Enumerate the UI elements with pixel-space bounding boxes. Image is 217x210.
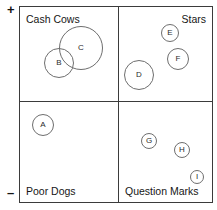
bubble-label: E	[167, 29, 172, 37]
bubble-label: B	[56, 59, 61, 67]
horizontal-divider	[20, 101, 212, 102]
bubble-label: G	[146, 137, 152, 145]
quadrant-label-cash-cows: Cash Cows	[26, 14, 80, 25]
bubble-label: A	[40, 121, 45, 129]
bubble-label: C	[78, 44, 84, 52]
y-axis-tick-positive: +	[7, 3, 15, 16]
bubble-h[interactable]: H	[174, 142, 190, 158]
bubble-c[interactable]: C	[59, 26, 103, 70]
matrix-frame: Cash Cows Stars Poor Dogs Question Marks…	[19, 6, 213, 203]
bubble-a[interactable]: A	[32, 114, 54, 136]
bubble-g[interactable]: G	[141, 133, 157, 149]
quadrant-label-poor-dogs: Poor Dogs	[26, 186, 76, 197]
bubble-e[interactable]: E	[161, 24, 179, 42]
bubble-f[interactable]: F	[167, 48, 189, 70]
quadrant-label-question-marks: Question Marks	[125, 186, 199, 197]
bubble-d[interactable]: D	[124, 60, 154, 90]
vertical-divider	[118, 7, 119, 202]
bubble-label: F	[176, 55, 181, 63]
bubble-label: D	[136, 71, 142, 79]
quadrant-label-stars: Stars	[181, 14, 206, 25]
bubble-label: H	[179, 146, 185, 154]
bcg-matrix-chart: Relativer Marktanteil + – Cash Cows Star…	[0, 0, 217, 210]
bubble-label: I	[196, 173, 198, 181]
bubble-i[interactable]: I	[190, 170, 204, 184]
y-axis-tick-negative: –	[7, 186, 14, 199]
